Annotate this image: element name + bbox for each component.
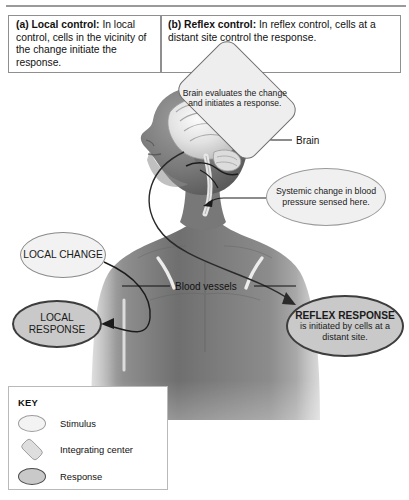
callout-local-change-text: LOCAL CHANGE: [21, 249, 105, 261]
caption-panel-divider: [160, 15, 162, 73]
panel-a-caption: (a) Local control: In local control, cel…: [16, 19, 152, 69]
callout-systemic-change: Systemic change in blood pressure sensed…: [266, 168, 386, 226]
panel-a-tag: (a) Local control:: [16, 19, 100, 30]
stimulus-shape-icon: [18, 415, 46, 432]
callout-reflex-response-title: REFLEX RESPONSE: [295, 310, 395, 321]
callout-local-change: LOCAL CHANGE: [20, 232, 106, 278]
label-blood-vessels: Blood vessels: [175, 281, 237, 292]
key-title: KEY: [18, 397, 38, 408]
key-item-stimulus: Stimulus: [18, 415, 96, 432]
key-item-response-label: Response: [60, 471, 102, 482]
callout-reflex-response-body: is initiated by cells at a distant site.: [300, 321, 390, 342]
panel-b-caption: (b) Reflex control: In reflex control, c…: [168, 19, 396, 44]
callout-systemic-text: Systemic change in blood pressure sensed…: [267, 186, 385, 207]
integrating-center-shape-icon: [20, 437, 44, 461]
callout-local-response: LOCAL RESPONSE: [12, 300, 102, 348]
key-item-integrating-center-label: Integrating center: [60, 444, 133, 455]
callout-brain-text: Brain evaluates the change and initiates…: [181, 88, 289, 108]
top-rule: [6, 5, 406, 7]
panel-b-tag: (b) Reflex control:: [168, 19, 256, 30]
label-brain: Brain: [296, 135, 319, 146]
key-item-integrating-center: Integrating center: [18, 441, 133, 458]
key-item-response: Response: [18, 468, 102, 485]
callout-reflex-response: REFLEX RESPONSE is initiated by cells at…: [286, 295, 404, 357]
callout-local-response-text: LOCAL RESPONSE: [14, 312, 100, 336]
key-item-stimulus-label: Stimulus: [60, 418, 96, 429]
response-shape-icon: [18, 468, 46, 485]
